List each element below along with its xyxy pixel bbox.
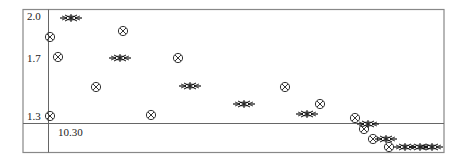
circled-x-point (315, 99, 324, 108)
circled-x-point (118, 26, 127, 35)
circled-x-point (350, 113, 359, 122)
star-point (179, 82, 201, 90)
star-point (233, 100, 255, 108)
star-point (60, 14, 82, 22)
y-tick-label: 1.3 (27, 110, 41, 122)
star-point (375, 135, 397, 143)
series-circled-x (45, 26, 393, 151)
circled-x-point (45, 111, 54, 120)
circled-x-point (91, 82, 100, 91)
x-tick-label: 10.30 (58, 126, 83, 138)
star-point (109, 54, 131, 62)
y-tick-label: 1.7 (27, 52, 41, 64)
y-tick-labels: 2.01.71.3 (27, 10, 41, 122)
star-point (421, 143, 443, 151)
plot-frame (23, 10, 444, 153)
circled-x-point (173, 53, 182, 62)
circled-x-point (45, 32, 54, 41)
x-tick-labels: 10.30 (58, 126, 83, 138)
circled-x-point (384, 142, 393, 151)
scatter-chart: 2.01.71.3 10.30 (0, 0, 466, 163)
y-tick-label: 2.0 (27, 10, 41, 22)
star-point (296, 110, 318, 118)
series-star (60, 14, 443, 151)
circled-x-point (280, 82, 289, 91)
circled-x-point (53, 52, 62, 61)
circled-x-point (146, 110, 155, 119)
